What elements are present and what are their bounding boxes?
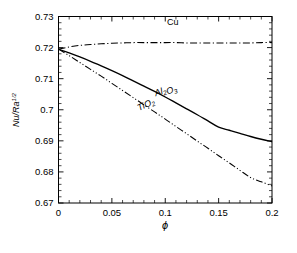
series-line-cu [59, 43, 273, 50]
figure-container: 00.050.10.150.2 0.670.680.690.70.710.720… [0, 0, 297, 253]
x-tick-label: 0.1 [159, 207, 172, 218]
y-axis-tick-labels: 0.670.680.690.70.710.720.73 [35, 11, 54, 209]
x-tick-label: 0.2 [265, 207, 278, 218]
y-tick-label: 0.7 [40, 104, 53, 115]
x-axis-label: ϕ [162, 219, 168, 231]
x-tick-label: 0 [56, 207, 61, 218]
svg-text:Nu/Ra1/2: Nu/Ra1/2 [11, 92, 22, 127]
series-inline-labels: CuAl2O3TiO2 [136, 17, 179, 114]
nusselt-vs-volume-fraction-chart: 00.050.10.150.2 0.670.680.690.70.710.720… [0, 0, 297, 253]
y-tick-label: 0.67 [35, 197, 54, 208]
y-tick-label: 0.73 [35, 11, 54, 22]
x-tick-label: 0.15 [209, 207, 228, 218]
y-tick-label: 0.71 [35, 73, 54, 84]
svg-text:Al2O3: Al2O3 [152, 81, 179, 101]
x-axis-tick-labels: 00.050.10.150.2 [56, 207, 279, 218]
series-label-cu: Cu [167, 17, 179, 27]
y-axis-label-main: Nu/Ra [11, 101, 21, 127]
y-axis-label: Nu/Ra1/2 [11, 92, 22, 127]
y-tick-label: 0.69 [35, 135, 54, 146]
svg-text:Cu: Cu [167, 17, 179, 27]
series-label-al2o3: Al2O3 [152, 81, 179, 101]
y-tick-label: 0.72 [35, 42, 54, 53]
data-series-lines [59, 43, 273, 186]
x-tick-label: 0.05 [103, 207, 122, 218]
y-tick-label: 0.68 [35, 166, 54, 177]
y-axis-label-exponent: 1/2 [11, 92, 17, 101]
series-line-tio2 [59, 49, 273, 186]
